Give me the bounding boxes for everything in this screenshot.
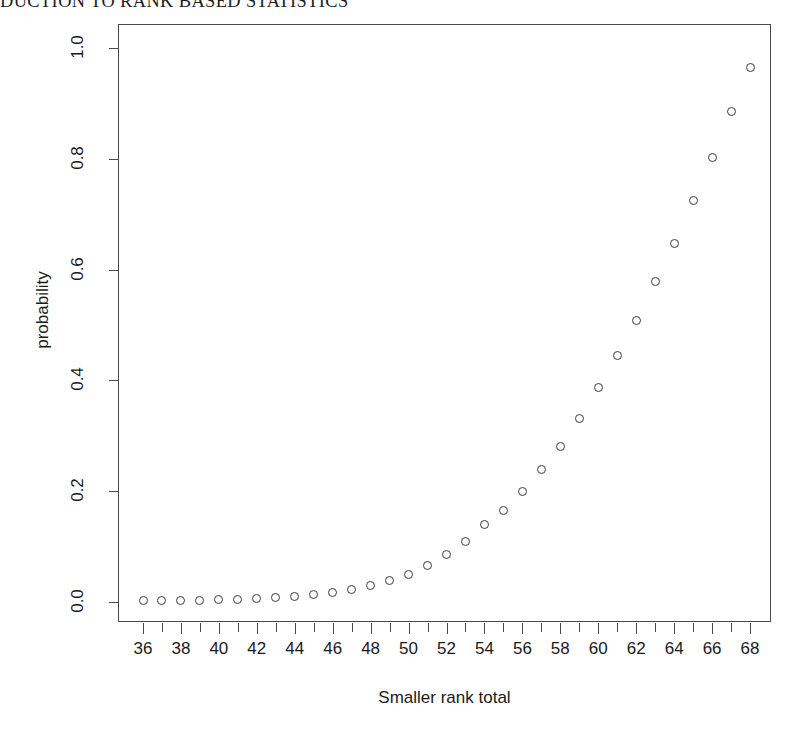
- x-axis-tick-label: 64: [654, 639, 694, 659]
- x-axis-tick-label: 42: [237, 639, 277, 659]
- x-axis-tick: [541, 623, 542, 632]
- x-axis-tick: [257, 623, 258, 634]
- x-axis-tick: [276, 623, 277, 632]
- x-axis-tick: [522, 623, 523, 634]
- x-axis-tick: [484, 623, 485, 634]
- y-axis-tick: [109, 159, 118, 160]
- y-axis-tick: [109, 48, 118, 49]
- x-axis-tick: [636, 623, 637, 634]
- x-axis-tick: [731, 623, 732, 632]
- y-axis-tick: [109, 380, 118, 381]
- x-axis-tick-label: 38: [161, 639, 201, 659]
- x-axis-tick: [371, 623, 372, 634]
- x-axis-tick: [390, 623, 391, 632]
- x-axis-tick: [674, 623, 675, 634]
- y-axis-tick-label: 0.0: [68, 578, 88, 624]
- x-axis-tick: [617, 623, 618, 632]
- x-axis-tick: [655, 623, 656, 632]
- x-axis-tick-label: 46: [313, 639, 353, 659]
- x-axis-tick: [200, 623, 201, 632]
- x-axis-title: Smaller rank total: [118, 688, 771, 708]
- y-axis-tick-label: 0.6: [68, 246, 88, 292]
- x-axis-tick: [428, 623, 429, 632]
- x-axis-tick: [503, 623, 504, 632]
- y-axis-tick: [109, 602, 118, 603]
- x-axis-tick: [295, 623, 296, 634]
- y-axis-tick-label: 0.4: [68, 356, 88, 402]
- x-axis-tick-label: 44: [275, 639, 315, 659]
- x-axis-tick-label: 58: [540, 639, 580, 659]
- y-axis-tick: [109, 270, 118, 271]
- y-axis-tick-label: 0.2: [68, 467, 88, 513]
- x-axis-tick: [447, 623, 448, 634]
- x-axis-tick: [162, 623, 163, 632]
- y-axis-tick: [109, 491, 118, 492]
- x-axis-tick: [181, 623, 182, 634]
- x-axis-tick: [579, 623, 580, 632]
- x-axis-tick-label: 40: [199, 639, 239, 659]
- x-axis-tick: [352, 623, 353, 632]
- x-axis-tick: [409, 623, 410, 634]
- x-axis-tick: [219, 623, 220, 634]
- x-axis-tick: [750, 623, 751, 634]
- x-axis-tick: [333, 623, 334, 634]
- x-axis-tick-label: 36: [123, 639, 163, 659]
- probability-scatter-chart: probability 0.00.20.40.60.81.0 363840424…: [0, 0, 801, 746]
- x-axis-tick: [560, 623, 561, 634]
- x-axis-tick-label: 66: [692, 639, 732, 659]
- x-axis-tick-label: 50: [389, 639, 429, 659]
- x-axis-tick: [693, 623, 694, 632]
- plot-area: [118, 24, 771, 622]
- x-axis-tick-label: 52: [427, 639, 467, 659]
- x-axis-tick: [238, 623, 239, 632]
- x-axis-tick: [712, 623, 713, 634]
- x-axis-tick: [314, 623, 315, 632]
- y-axis-tick-label: 0.8: [68, 135, 88, 181]
- x-axis-tick-label: 60: [578, 639, 618, 659]
- x-axis-tick: [465, 623, 466, 632]
- x-axis-tick: [143, 623, 144, 634]
- x-axis-tick: [598, 623, 599, 634]
- y-axis-tick-label: 1.0: [68, 24, 88, 70]
- x-axis-tick-label: 56: [502, 639, 542, 659]
- x-axis-tick-label: 48: [351, 639, 391, 659]
- x-axis-tick-label: 62: [616, 639, 656, 659]
- x-axis-tick-label: 68: [730, 639, 770, 659]
- y-axis-title: probability: [33, 250, 53, 370]
- x-axis-tick-label: 54: [464, 639, 504, 659]
